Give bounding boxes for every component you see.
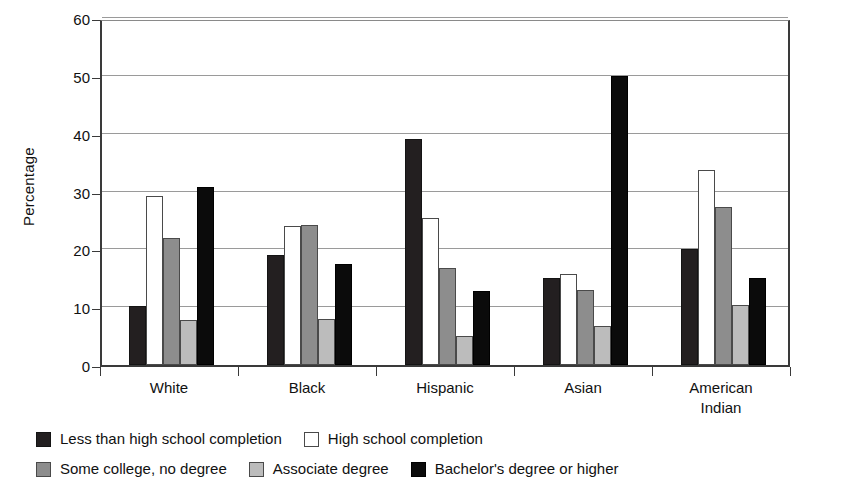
legend-row-2: Some college, no degreeAssociate degreeB… bbox=[36, 454, 836, 484]
y-tick-label-0: 0 bbox=[30, 359, 90, 374]
bar-group-hispanic bbox=[405, 21, 490, 365]
bar bbox=[577, 290, 594, 365]
x-tick-mark-3 bbox=[514, 367, 515, 376]
x-category-label-white: White bbox=[94, 378, 244, 398]
y-tick-mark-20 bbox=[92, 251, 100, 252]
bar-chart-figure: Percentage 0102030405060 WhiteBlackHispa… bbox=[0, 0, 847, 504]
bar bbox=[284, 226, 301, 365]
y-tick-label-50: 50 bbox=[30, 70, 90, 85]
bar-group-asian bbox=[543, 21, 628, 365]
x-category-line: Hispanic bbox=[370, 378, 520, 398]
bar bbox=[301, 225, 318, 365]
x-category-label-hispanic: Hispanic bbox=[370, 378, 520, 398]
legend-label: High school completion bbox=[328, 431, 483, 447]
bar-group-white bbox=[129, 21, 214, 365]
y-tick-mark-50 bbox=[92, 78, 100, 79]
x-tick-mark-5 bbox=[790, 367, 791, 376]
medium-gray-swatch bbox=[36, 462, 51, 477]
legend-item[interactable]: Some college, no degree bbox=[36, 461, 227, 477]
x-category-label-black: Black bbox=[232, 378, 382, 398]
bar bbox=[473, 291, 490, 365]
bar bbox=[129, 306, 146, 365]
bar bbox=[422, 218, 439, 365]
y-tick-label-30: 30 bbox=[30, 186, 90, 201]
x-category-label-asian: Asian bbox=[508, 378, 658, 398]
y-tick-mark-0 bbox=[92, 367, 100, 368]
black-swatch bbox=[411, 462, 426, 477]
x-category-line: Indian bbox=[646, 398, 796, 418]
y-tick-mark-10 bbox=[92, 309, 100, 310]
legend-item[interactable]: High school completion bbox=[304, 431, 483, 447]
x-tick-mark-1 bbox=[238, 367, 239, 376]
x-category-line: American bbox=[646, 378, 796, 398]
legend-item[interactable]: Associate degree bbox=[249, 461, 389, 477]
bar bbox=[335, 264, 352, 365]
plot-area bbox=[100, 20, 790, 367]
legend-item[interactable]: Less than high school completion bbox=[36, 431, 282, 447]
bar bbox=[611, 76, 628, 365]
bar bbox=[180, 320, 197, 365]
y-tick-label-10: 10 bbox=[30, 301, 90, 316]
bar bbox=[456, 336, 473, 365]
bar bbox=[405, 139, 422, 365]
x-category-label-american-indian: AmericanIndian bbox=[646, 378, 796, 418]
y-tick-mark-40 bbox=[92, 136, 100, 137]
legend-row-1: Less than high school completionHigh sch… bbox=[36, 424, 836, 454]
white-swatch bbox=[304, 432, 319, 447]
chart-legend: Less than high school completionHigh sch… bbox=[36, 424, 836, 484]
dark-textured-swatch bbox=[36, 432, 51, 447]
bar bbox=[318, 319, 335, 365]
bar bbox=[146, 196, 163, 365]
bar bbox=[197, 187, 214, 365]
x-category-line: White bbox=[94, 378, 244, 398]
bar bbox=[543, 278, 560, 365]
bar bbox=[732, 305, 749, 365]
x-category-line: Asian bbox=[508, 378, 658, 398]
bar bbox=[267, 255, 284, 365]
legend-item[interactable]: Bachelor's degree or higher bbox=[411, 461, 619, 477]
bar bbox=[594, 326, 611, 365]
bar bbox=[749, 278, 766, 365]
x-tick-mark-0 bbox=[100, 367, 101, 376]
y-tick-mark-30 bbox=[92, 194, 100, 195]
y-tick-label-20: 20 bbox=[30, 243, 90, 258]
bar-group-american-indian bbox=[681, 21, 766, 365]
legend-label: Less than high school completion bbox=[60, 431, 282, 447]
y-tick-label-40: 40 bbox=[30, 128, 90, 143]
bar bbox=[439, 268, 456, 365]
x-category-line: Black bbox=[232, 378, 382, 398]
light-gray-swatch bbox=[249, 462, 264, 477]
gridline-60 bbox=[102, 17, 788, 18]
legend-label: Some college, no degree bbox=[60, 461, 227, 477]
x-tick-mark-4 bbox=[652, 367, 653, 376]
legend-label: Bachelor's degree or higher bbox=[435, 461, 619, 477]
legend-label: Associate degree bbox=[273, 461, 389, 477]
x-tick-mark-2 bbox=[376, 367, 377, 376]
y-tick-mark-60 bbox=[92, 20, 100, 21]
bar-group-black bbox=[267, 21, 352, 365]
y-tick-label-60: 60 bbox=[30, 12, 90, 27]
bar bbox=[715, 207, 732, 365]
bar bbox=[163, 238, 180, 365]
bar bbox=[698, 170, 715, 365]
bar bbox=[681, 249, 698, 365]
bar bbox=[560, 274, 577, 365]
